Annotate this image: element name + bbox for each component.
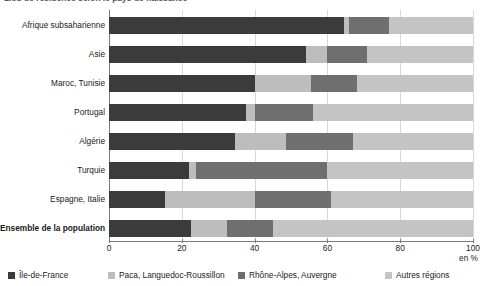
bar-row (109, 46, 473, 63)
legend-item-ile-de-france[interactable]: Île-de-France (8, 270, 68, 280)
bar-row (109, 191, 473, 208)
bar-row (109, 17, 473, 34)
legend-label: Île-de-France (19, 270, 68, 280)
legend-label: Autres régions (396, 270, 450, 280)
legend-label: Paca, Languedoc-Roussillon (119, 270, 225, 280)
legend-swatch-autres-icon (385, 272, 392, 279)
category-axis-labels: Afrique subsaharienneAsieMaroc, TunisieP… (0, 10, 105, 242)
gridline-100 (473, 10, 474, 242)
category-label: Asie (0, 46, 105, 63)
legend-swatch-ile-de-france-icon (8, 272, 15, 279)
category-label: Ensemble de la population (0, 220, 105, 237)
bar-segment-rhone-alpes (327, 46, 367, 63)
bar-segment-rhone-alpes (255, 191, 331, 208)
bar-row (109, 75, 473, 92)
bar-segment-autres-regions (353, 133, 473, 150)
bar-segment-paca (306, 46, 328, 63)
bar-segment-paca (191, 220, 227, 237)
x-tick-label-80: 80 (396, 243, 405, 253)
x-tick-label-60: 60 (323, 243, 332, 253)
legend-swatch-rhone-alpes-icon (238, 272, 245, 279)
bar-segment-ile-de-france (109, 46, 306, 63)
bar-segment-autres-regions (357, 75, 473, 92)
bar-segment-ile-de-france (109, 75, 255, 92)
bar-segment-rhone-alpes (349, 17, 389, 34)
bar-segment-ile-de-france (109, 17, 344, 34)
category-label: Portugal (0, 104, 105, 121)
bar-row (109, 162, 473, 179)
bar-segment-paca (235, 133, 286, 150)
chart-legend: Île-de-FrancePaca, Languedoc-RoussillonR… (0, 270, 485, 284)
stacked-bar-chart: Lieu de résidence selon le pays de naiss… (0, 0, 485, 286)
bar-segment-autres-regions (389, 17, 473, 34)
bar-segment-autres-regions (367, 46, 473, 63)
legend-item-autres-regions[interactable]: Autres régions (385, 270, 450, 280)
bar-segment-autres-regions (327, 162, 473, 179)
plot-area (109, 10, 473, 242)
category-label: Turquie (0, 162, 105, 179)
legend-item-rhone-alpes[interactable]: Rhône-Alpes, Auvergne (238, 270, 337, 280)
category-label: Maroc, Tunisie (0, 75, 105, 92)
x-axis-unit-label: en % (0, 253, 478, 263)
legend-item-paca[interactable]: Paca, Languedoc-Roussillon (108, 270, 225, 280)
x-tick-label-20: 20 (177, 243, 186, 253)
bar-segment-paca (189, 162, 196, 179)
category-label: Algérie (0, 133, 105, 150)
category-label: Afrique subsaharienne (0, 17, 105, 34)
bar-segment-rhone-alpes (227, 220, 273, 237)
x-tick-label-40: 40 (250, 243, 259, 253)
x-tick-label-100: 100 (466, 243, 480, 253)
bar-segment-autres-regions (313, 104, 473, 121)
bar-segment-rhone-alpes (255, 104, 313, 121)
bar-segment-autres-regions (273, 220, 473, 237)
bar-segment-paca (255, 75, 311, 92)
bar-segment-rhone-alpes (286, 133, 353, 150)
bar-segment-ile-de-france (109, 162, 189, 179)
legend-label: Rhône-Alpes, Auvergne (249, 270, 337, 280)
bar-segment-rhone-alpes (196, 162, 327, 179)
chart-title-clipped: Lieu de résidence selon le pays de naiss… (4, 0, 304, 3)
bar-segment-paca (165, 191, 254, 208)
bar-segment-rhone-alpes (311, 75, 357, 92)
bar-rows (109, 10, 473, 242)
bar-segment-ile-de-france (109, 220, 191, 237)
bar-row (109, 220, 473, 237)
bar-segment-ile-de-france (109, 191, 165, 208)
category-label: Espagne, Italie (0, 191, 105, 208)
bar-segment-autres-regions (331, 191, 473, 208)
bar-segment-ile-de-france (109, 133, 235, 150)
bar-segment-ile-de-france (109, 104, 246, 121)
x-tick-label-0: 0 (107, 243, 112, 253)
legend-swatch-paca-icon (108, 272, 115, 279)
bar-row (109, 104, 473, 121)
bar-row (109, 133, 473, 150)
bar-segment-paca (246, 104, 255, 121)
